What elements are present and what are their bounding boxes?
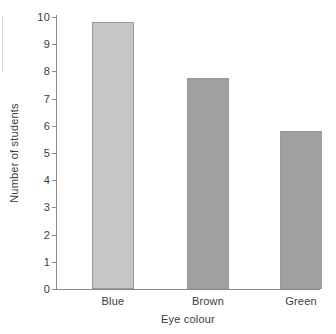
y-tick-mark (52, 71, 57, 72)
y-tick-label: 4 (44, 174, 50, 186)
y-tick-label: 8 (44, 65, 50, 77)
x-axis-title: Eye colour (161, 313, 215, 325)
bar-green[interactable] (280, 131, 322, 289)
y-tick-label: 5 (44, 147, 50, 159)
x-category-label-blue: Blue (102, 295, 125, 307)
y-tick-mark (52, 207, 57, 208)
y-tick-label: 10 (37, 11, 50, 23)
y-tick-label: 1 (44, 256, 50, 268)
y-tick-mark (52, 126, 57, 127)
y-tick-mark (52, 17, 57, 18)
y-tick-mark (52, 235, 57, 236)
bar-blue[interactable] (92, 22, 134, 289)
y-tick-label: 6 (44, 120, 50, 132)
x-category-label-brown: Brown (192, 295, 224, 307)
y-tick-mark (52, 99, 57, 100)
x-category-label-green: Green (285, 295, 317, 307)
y-tick-label: 9 (44, 38, 50, 50)
y-tick-label: 3 (44, 201, 50, 213)
y-axis-title: Number of students (8, 103, 20, 203)
page-scan-edge-artifact (2, 16, 3, 72)
y-tick-label: 7 (44, 93, 50, 105)
y-tick-mark (52, 153, 57, 154)
y-tick-label: 2 (44, 229, 50, 241)
x-axis-line (56, 289, 320, 290)
y-tick-mark (52, 289, 57, 290)
plot-area: 10 9 8 7 6 5 4 3 (57, 17, 320, 289)
bar-chart-figure: Number of students 10 9 8 7 6 5 4 (0, 0, 336, 334)
y-tick-mark (52, 180, 57, 181)
y-tick-label: 0 (44, 283, 50, 295)
bar-brown[interactable] (187, 78, 229, 289)
y-tick-mark (52, 262, 57, 263)
y-tick-mark (52, 44, 57, 45)
